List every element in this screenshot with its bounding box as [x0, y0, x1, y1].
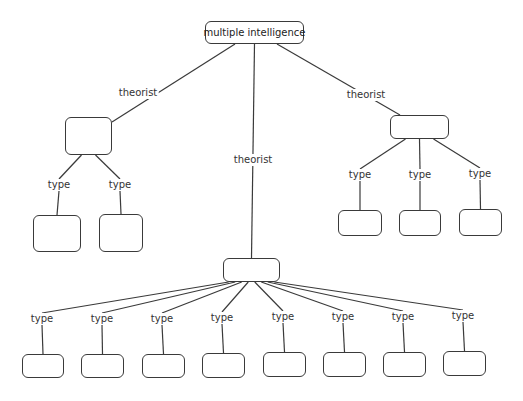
type-node-center-1[interactable]: [22, 354, 64, 378]
type-label-center-7: type: [391, 311, 415, 323]
type-label-right-2: type: [408, 169, 432, 181]
type-label-center-8: type: [451, 310, 475, 322]
theorist-node-right[interactable]: [390, 115, 449, 139]
type-label-left-1: type: [47, 179, 71, 191]
type-link-upper-center-6: [268, 282, 403, 311]
type-link-upper-right-2: [434, 139, 481, 168]
type-node-center-3[interactable]: [142, 354, 185, 378]
theorist-label-right: theorist: [346, 89, 387, 101]
type-label-center-6: type: [331, 311, 355, 323]
type-link-upper-left-1: [96, 155, 121, 179]
type-link-lower-center-5: [343, 323, 345, 352]
type-node-right-1[interactable]: [338, 210, 382, 236]
theorist-link-center: [252, 44, 255, 258]
root-node-text: multiple intelligence: [203, 27, 305, 38]
type-link-lower-center-1: [102, 325, 103, 354]
root-node[interactable]: multiple intelligence: [205, 21, 304, 44]
type-link-upper-center-3: [222, 282, 248, 312]
type-link-lower-right-2: [480, 180, 481, 209]
type-link-lower-center-0: [42, 325, 43, 354]
type-link-lower-center-3: [222, 324, 224, 353]
concept-map-canvas: multiple intelligence theoristtypetypeth…: [0, 0, 523, 401]
type-link-lower-center-7: [463, 322, 465, 351]
type-link-lower-center-2: [162, 325, 164, 354]
type-node-center-7[interactable]: [383, 352, 426, 377]
type-link-upper-right-0: [360, 139, 406, 169]
connector-lines: [0, 0, 523, 401]
theorist-node-left[interactable]: [65, 117, 112, 155]
type-link-upper-right-1: [420, 139, 421, 169]
type-label-right-1: type: [348, 169, 372, 181]
type-label-left-2: type: [108, 179, 132, 191]
type-link-upper-center-1: [102, 282, 235, 313]
type-link-lower-center-4: [283, 323, 285, 352]
type-node-center-4[interactable]: [202, 353, 245, 378]
theorist-node-center[interactable]: [223, 258, 280, 282]
type-label-center-2: type: [90, 313, 114, 325]
type-node-right-2[interactable]: [399, 210, 441, 236]
type-link-upper-center-7: [274, 282, 463, 310]
type-node-left-1[interactable]: [33, 215, 81, 252]
type-link-upper-center-4: [255, 282, 283, 311]
type-link-lower-center-6: [403, 323, 405, 352]
theorist-label-left: theorist: [118, 87, 159, 99]
type-node-center-6[interactable]: [323, 352, 366, 377]
type-node-center-2[interactable]: [81, 354, 124, 378]
theorist-label-center: theorist: [233, 154, 274, 166]
type-label-center-1: type: [30, 313, 54, 325]
type-link-upper-left-0: [59, 155, 82, 179]
type-link-lower-left-1: [120, 191, 121, 214]
type-node-right-3[interactable]: [459, 209, 502, 236]
theorist-link-right: [277, 44, 400, 115]
type-label-center-4: type: [210, 312, 234, 324]
type-node-center-5[interactable]: [263, 352, 306, 377]
type-node-center-8[interactable]: [443, 351, 486, 376]
type-label-right-3: type: [468, 168, 492, 180]
type-label-center-3: type: [150, 313, 174, 325]
type-link-lower-left-0: [57, 191, 59, 215]
type-label-center-5: type: [271, 311, 295, 323]
theorist-link-left: [112, 44, 235, 122]
type-node-left-2[interactable]: [99, 214, 143, 252]
